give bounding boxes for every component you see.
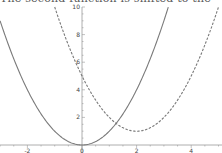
x-tick-label: -2 — [24, 147, 30, 153]
curves — [0, 7, 218, 145]
y-tick-label: 2 — [76, 113, 80, 120]
solid-parabola-curve — [0, 7, 168, 145]
x-tick-label: 0 — [80, 147, 84, 153]
function-plot: -2024246810 — [0, 0, 222, 153]
y-tick-label: 10 — [72, 3, 80, 10]
axes: -2024246810 — [0, 3, 222, 153]
y-tick-label: 8 — [76, 31, 80, 38]
x-tick-label: 2 — [135, 147, 139, 153]
x-tick-label: 4 — [189, 147, 193, 153]
y-tick-label: 4 — [76, 86, 80, 93]
